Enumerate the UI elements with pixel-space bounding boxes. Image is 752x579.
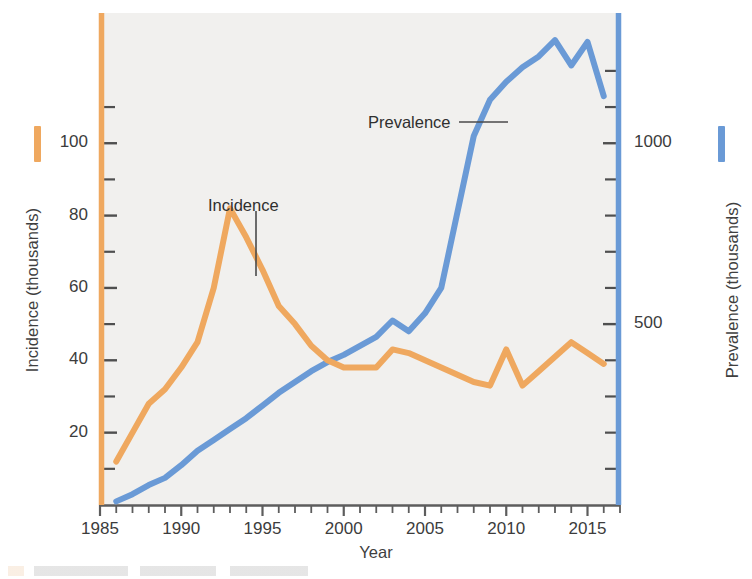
y-left-tick-label: 100 <box>28 132 88 152</box>
y-axis-right-title: Prevalence (thousands) <box>723 170 742 410</box>
x-tick-label: 2015 <box>553 519 623 539</box>
x-axis-title: Year <box>0 543 752 562</box>
y-left-tick-label: 40 <box>28 349 88 369</box>
prevalence-annotation-label: Prevalence <box>368 113 451 132</box>
x-tick-label: 2005 <box>390 519 460 539</box>
y-right-tick-label: 500 <box>634 313 704 333</box>
x-tick-label: 1995 <box>228 519 298 539</box>
x-tick-label: 1985 <box>65 519 135 539</box>
x-tick-label: 2010 <box>471 519 541 539</box>
incidence-prevalence-chart <box>0 0 752 579</box>
y-left-tick-label: 20 <box>28 422 88 442</box>
page-caption-fragment <box>8 566 348 576</box>
y-right-tick-label: 1000 <box>634 132 704 152</box>
plot-background <box>100 13 620 505</box>
x-tick-label: 1990 <box>146 519 216 539</box>
y-left-tick-label: 60 <box>28 277 88 297</box>
y-left-tick-label: 80 <box>28 205 88 225</box>
prevalence-legend-swatch <box>718 126 725 162</box>
incidence-annotation-label: Incidence <box>208 196 279 215</box>
x-tick-label: 2000 <box>309 519 379 539</box>
